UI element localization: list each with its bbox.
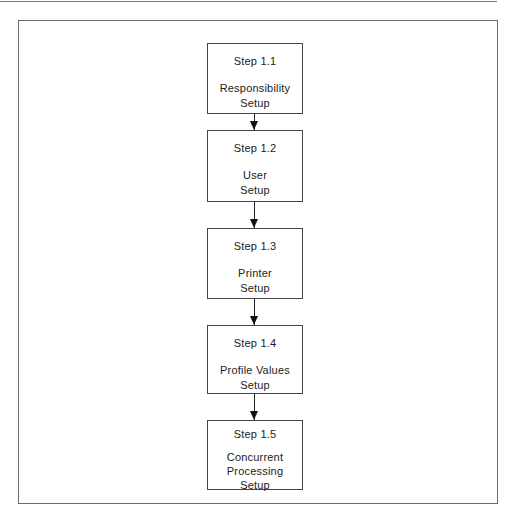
arrow-down-icon — [250, 219, 258, 228]
step-title: User Setup — [208, 168, 302, 198]
arrow-down-icon — [250, 411, 258, 420]
step-title: Printer Setup — [208, 266, 302, 296]
arrow-down-icon — [250, 121, 258, 130]
arrow-step-1-4-to-1-5 — [254, 394, 255, 420]
step-box-concurrent-processing-setup: Step 1.5 Concurrent Processing Setup — [207, 420, 303, 490]
step-number: Step 1.2 — [208, 141, 302, 156]
step-box-responsibility-setup: Step 1.1 Responsibility Setup — [207, 43, 303, 114]
step-box-printer-setup: Step 1.3 Printer Setup — [207, 228, 303, 299]
arrow-step-1-1-to-1-2 — [254, 114, 255, 130]
step-number: Step 1.1 — [208, 54, 302, 69]
page-top-rule — [0, 1, 497, 2]
step-title: Profile Values Setup — [208, 363, 302, 393]
step-box-user-setup: Step 1.2 User Setup — [207, 130, 303, 202]
arrow-down-icon — [250, 316, 258, 325]
step-number: Step 1.3 — [208, 239, 302, 254]
step-number: Step 1.5 — [208, 427, 302, 442]
step-box-profile-values-setup: Step 1.4 Profile Values Setup — [207, 325, 303, 394]
arrow-step-1-3-to-1-4 — [254, 299, 255, 325]
arrow-step-1-2-to-1-3 — [254, 202, 255, 228]
step-title: Responsibility Setup — [208, 81, 302, 111]
step-title: Concurrent Processing Setup — [208, 450, 302, 492]
step-number: Step 1.4 — [208, 336, 302, 351]
